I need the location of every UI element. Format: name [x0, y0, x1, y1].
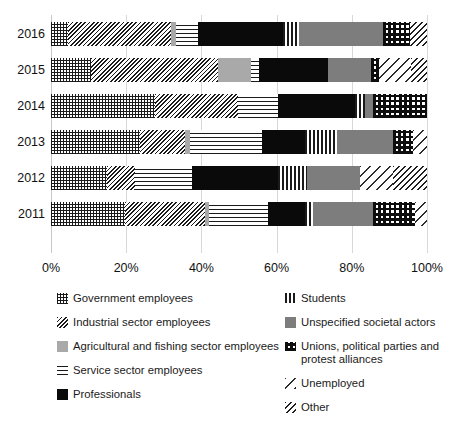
bar-segment: [190, 130, 262, 154]
bar-segment: [305, 130, 337, 154]
bar-row: [51, 94, 427, 118]
bar-segment: [176, 22, 198, 46]
y-axis-tick-label: 2014: [0, 94, 45, 118]
bar-segment: [198, 22, 283, 46]
x-axis-tick-label: 0%: [42, 261, 60, 275]
bar-row: [51, 130, 427, 154]
bar-segment: [337, 130, 393, 154]
bar-segment: [371, 58, 379, 82]
legend-item-label: Students: [301, 292, 450, 305]
legend-item[interactable]: Government employees: [57, 292, 287, 305]
bar-segment: [413, 130, 427, 154]
bar-segment: [393, 166, 427, 190]
bar-segment: [383, 22, 410, 46]
bar-segment: [251, 58, 259, 82]
legend-item-label: Industrial sector employees: [73, 316, 287, 329]
bar-segment: [68, 22, 171, 46]
legend-item-label: Agricultural and fishing sector employee…: [73, 340, 287, 353]
y-axis-tick-label: 2015: [0, 58, 45, 82]
bar-segment: [155, 94, 238, 118]
bar-segment: [259, 58, 328, 82]
bar-segment: [328, 58, 371, 82]
chart-legend: Government employeesIndustrial sector em…: [0, 292, 451, 429]
bar-segment: [262, 130, 305, 154]
y-axis-tick-label: 2016: [0, 22, 45, 46]
bar-row: [51, 202, 427, 226]
bar-segment: [415, 202, 427, 226]
legend-item[interactable]: Service sector employees: [57, 364, 287, 377]
bar-segment: [278, 94, 355, 118]
legend-item[interactable]: Professionals: [57, 388, 287, 401]
x-axis-tick-label: 100%: [411, 261, 443, 275]
bar-segment: [51, 166, 107, 190]
legend-swatch-icon: [57, 341, 68, 352]
bar-segment: [238, 94, 278, 118]
bar-segment: [192, 166, 278, 190]
bar-segment: [51, 58, 91, 82]
bar-segment: [51, 202, 125, 226]
x-axis: 0%20%40%60%80%100%: [51, 255, 427, 277]
bar-segment: [283, 22, 299, 46]
gridline: [427, 15, 428, 253]
bar-segment: [360, 166, 393, 190]
legend-item[interactable]: Agricultural and fishing sector employee…: [57, 340, 287, 353]
legend-item[interactable]: Unions, political parties and protest al…: [285, 340, 450, 366]
x-axis-tick-label: 20%: [114, 261, 139, 275]
bar-segment: [278, 166, 307, 190]
bar-segment: [218, 58, 251, 82]
legend-swatch-icon: [285, 342, 296, 351]
legend-item-label: Unions, political parties and protest al…: [301, 340, 450, 366]
legend-item-label: Service sector employees: [73, 364, 287, 377]
legend-item-label: Government employees: [73, 292, 287, 305]
bar-segment: [307, 166, 360, 190]
legend-swatch-icon: [57, 293, 68, 304]
legend-item[interactable]: Unspecified societal actors: [285, 316, 450, 329]
legend-item-label: Professionals: [73, 388, 287, 401]
legend-swatch-icon: [285, 378, 296, 389]
legend-item-label: Unemployed: [301, 377, 450, 390]
bar-segment: [51, 94, 155, 118]
bar-segment: [373, 94, 427, 118]
legend-item[interactable]: Unemployed: [285, 377, 450, 390]
legend-swatch-icon: [285, 317, 296, 328]
legend-item[interactable]: Other: [285, 401, 450, 414]
bar-segment: [365, 94, 373, 118]
y-axis-tick-label: 2013: [0, 130, 45, 154]
bar-segment: [411, 58, 427, 82]
legend-column-left: Government employeesIndustrial sector em…: [57, 292, 287, 412]
legend-swatch-icon: [57, 366, 68, 375]
y-axis-tick-label: 2011: [0, 202, 45, 226]
stacked-bar-chart: 201620152014201320122011 0%20%40%60%80%1…: [0, 0, 451, 290]
bar-segment: [107, 166, 135, 190]
x-axis-tick-label: 40%: [189, 261, 214, 275]
bar-segment: [410, 22, 427, 46]
x-axis-tick-label: 80%: [339, 261, 364, 275]
x-axis-tick-label: 60%: [264, 261, 289, 275]
bar-segment: [373, 202, 415, 226]
plot-area: 201620152014201320122011: [51, 15, 427, 253]
bar-row: [51, 166, 427, 190]
legend-item[interactable]: Industrial sector employees: [57, 316, 287, 329]
bar-segment: [140, 130, 185, 154]
bar-segment: [135, 166, 192, 190]
bar-row: [51, 58, 427, 82]
legend-item-label: Other: [301, 401, 450, 414]
bar-segment: [299, 22, 383, 46]
bar-segment: [393, 130, 413, 154]
bar-segment: [355, 94, 365, 118]
legend-swatch-icon: [285, 293, 296, 303]
bar-segment: [51, 130, 140, 154]
y-axis-tick-label: 2012: [0, 166, 45, 190]
bar-segment: [268, 202, 305, 226]
bar-segment: [51, 22, 68, 46]
bar-segment: [379, 58, 411, 82]
legend-column-right: StudentsUnspecified societal actorsUnion…: [285, 292, 450, 425]
legend-item-label: Unspecified societal actors: [301, 316, 450, 329]
bar-row: [51, 22, 427, 46]
legend-swatch-icon: [57, 317, 68, 328]
bar-segment: [209, 202, 268, 226]
bar-segment: [91, 58, 218, 82]
bar-segment: [305, 202, 313, 226]
legend-item[interactable]: Students: [285, 292, 450, 305]
bar-segment: [125, 202, 205, 226]
